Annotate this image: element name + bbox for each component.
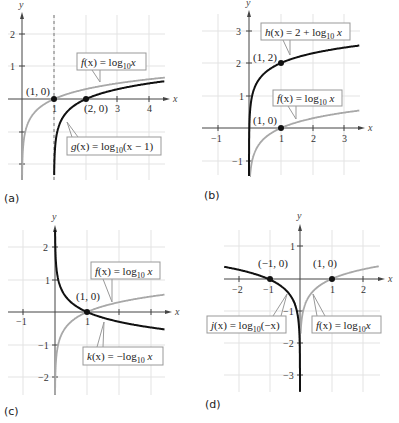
panel-a: y x 2 1 1 3 4 (1, 0) (2, 0) f(x) = log10… xyxy=(8,0,178,180)
y-axis-arrow-icon xyxy=(20,12,24,19)
point-label-1-0: (1, 0) xyxy=(26,85,50,98)
panel-d: y x 1 −1 −2 −3 −2 −1 1 2 (−1, 0) (1, 0) … xyxy=(207,210,393,392)
tick-x-1: 1 xyxy=(330,284,335,295)
figure-canvas: y x 2 1 1 3 4 (1, 0) (2, 0) f(x) = log10… xyxy=(0,0,399,423)
x-axis-label: x xyxy=(174,306,180,317)
x-axis-arrow-icon xyxy=(358,126,365,130)
x-axis-label: x xyxy=(387,273,393,284)
x-axis-label: x xyxy=(172,93,178,104)
tick-y-1: 1 xyxy=(290,241,295,252)
point-m1-0 xyxy=(267,276,273,282)
x-axis-arrow-icon xyxy=(378,277,385,281)
point-label-1-0: (1, 0) xyxy=(313,257,337,270)
tick-x-1: 1 xyxy=(52,103,57,114)
tick-y-1: 1 xyxy=(239,91,244,102)
y-axis-label: y xyxy=(51,211,57,222)
tick-x-m1: −1 xyxy=(211,133,222,144)
tick-y-m2: −2 xyxy=(38,372,49,383)
leader-g xyxy=(67,122,78,137)
tick-y-m1: −1 xyxy=(283,306,294,317)
curve-g xyxy=(54,81,164,175)
point-label-1-2: (1, 2) xyxy=(253,51,277,64)
tick-x-1: 1 xyxy=(279,133,284,144)
tick-x-2: 2 xyxy=(311,133,316,144)
panel-label-c: (c) xyxy=(4,405,19,418)
leader-f xyxy=(92,70,100,82)
tick-y-m2: −2 xyxy=(283,338,294,349)
panel-c: y x 2 1 −1 −2 −1 1 (1, 0) f(x) = log10 x… xyxy=(8,211,180,395)
point-1-2 xyxy=(278,60,284,66)
point-1-0 xyxy=(51,96,57,102)
leader-k xyxy=(97,322,104,347)
tick-y-2: 2 xyxy=(10,29,15,40)
x-axis-label: x xyxy=(367,122,373,133)
x-axis-arrow-icon xyxy=(163,97,170,101)
y-axis-label: y xyxy=(296,210,302,221)
point-1-0 xyxy=(278,125,284,131)
x-axis-arrow-icon xyxy=(165,310,172,314)
tick-y-3: 3 xyxy=(236,26,241,37)
curve-f xyxy=(55,295,164,394)
tick-x-4: 4 xyxy=(147,103,152,114)
panel-label-b: (b) xyxy=(204,189,220,202)
tick-y-m1: −1 xyxy=(232,156,243,167)
y-axis-arrow-icon xyxy=(247,10,251,17)
tick-y-2: 2 xyxy=(43,242,48,253)
point-label-2-0: (2, 0) xyxy=(84,102,108,115)
point-label-m1-0: (−1, 0) xyxy=(258,257,288,270)
panel-label-a: (a) xyxy=(4,192,19,205)
tick-y-m3: −3 xyxy=(283,370,294,381)
leader-f xyxy=(313,294,325,316)
y-axis-label: y xyxy=(18,0,24,10)
tick-y-1: 1 xyxy=(45,275,50,286)
tick-y-m1: −1 xyxy=(38,340,49,351)
leader-f xyxy=(103,279,112,302)
panel-b: y x 3 2 1 −1 −1 1 2 3 (1, 2) (1, 0) h(x)… xyxy=(202,0,373,176)
point-1-0 xyxy=(329,276,335,282)
point-label-1-0: (1, 0) xyxy=(253,114,277,127)
leader-f xyxy=(288,106,296,119)
panel-label-d: (d) xyxy=(205,398,221,411)
tick-x-m2: −2 xyxy=(232,284,243,295)
tick-x-m1: −1 xyxy=(16,316,27,327)
tick-x-1: 1 xyxy=(85,316,90,327)
point-label-1-0: (1, 0) xyxy=(76,290,100,303)
curve-h xyxy=(249,46,359,177)
y-axis-label: y xyxy=(245,0,251,8)
tick-x-m1: −1 xyxy=(263,284,274,295)
tick-x-3: 3 xyxy=(115,103,120,114)
point-1-0 xyxy=(84,309,90,315)
tick-y-1: 1 xyxy=(10,61,15,72)
y-axis-arrow-icon xyxy=(298,224,302,231)
tick-y-2: 2 xyxy=(236,58,241,69)
tick-x-2: 2 xyxy=(361,284,366,295)
leader-h xyxy=(283,40,290,55)
tick-x-3: 3 xyxy=(342,133,347,144)
